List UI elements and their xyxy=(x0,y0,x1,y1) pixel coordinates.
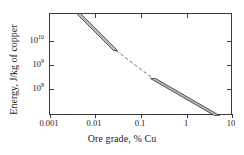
x-tick-label-2: 0.1 xyxy=(135,118,146,128)
y-tick-label-2: 108 xyxy=(33,83,45,93)
y-tick-label-1-exp: 9 xyxy=(41,58,44,64)
y-tick-label-2-base: 10 xyxy=(33,83,42,93)
y-tick-right-0 xyxy=(227,41,231,42)
x-tick-top-1 xyxy=(95,14,96,18)
y-tick-label-0: 1010 xyxy=(30,35,45,45)
y-tick-label-2-exp: 8 xyxy=(41,82,44,88)
y-tick-label-0-base: 10 xyxy=(30,35,39,45)
y-tick-right-1 xyxy=(227,65,231,66)
y-tick-right-2 xyxy=(227,89,231,90)
x-tick-top-3 xyxy=(187,14,188,18)
y-tick-label-1: 109 xyxy=(33,59,45,69)
x-tick-label-0: 0.001 xyxy=(39,118,58,128)
y-tick-0 xyxy=(50,41,54,42)
x-tick-label-4: 10 xyxy=(227,118,236,128)
plot-area xyxy=(49,13,232,115)
x-tick-top-2 xyxy=(141,14,142,18)
y-axis-title: Energy, J/kg of copper xyxy=(8,15,19,125)
y-tick-label-1-base: 10 xyxy=(33,59,42,69)
x-axis-title: Ore grade, % Cu xyxy=(0,133,244,144)
x-tick-label-3: 1 xyxy=(184,118,188,128)
y-tick-2 xyxy=(50,89,54,90)
x-tick-label-1: 0.01 xyxy=(87,118,102,128)
y-tick-1 xyxy=(50,65,54,66)
y-tick-label-0-exp: 10 xyxy=(38,34,44,40)
chart-figure: 0.001 0.01 0.1 1 10 1010 109 108 Ore gra… xyxy=(0,0,244,155)
